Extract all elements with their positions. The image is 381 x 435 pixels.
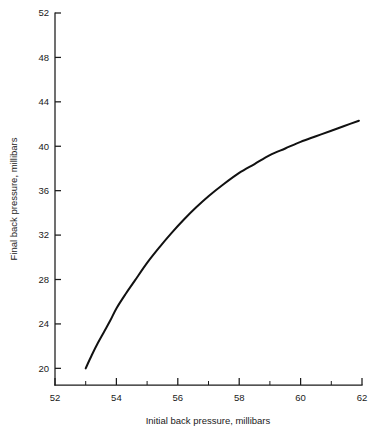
y-tick-label-32: 32 [38, 229, 49, 240]
line-chart: 202428323640444852 Final back pressure, … [0, 0, 381, 435]
y-tick-label-36: 36 [38, 185, 49, 196]
data-curve-final-back-pressure [86, 121, 359, 369]
y-tick-label-44: 44 [38, 96, 49, 107]
x-axis-tick-labels: 525456586062 [50, 392, 368, 403]
y-tick-label-40: 40 [38, 141, 49, 152]
data-series-group [86, 121, 359, 369]
x-tick-label-56: 56 [173, 392, 184, 403]
y-tick-label-24: 24 [38, 318, 49, 329]
y-axis-title: Final back pressure, millibars [8, 137, 19, 260]
y-axis-tick-labels: 202428323640444852 [38, 7, 49, 373]
x-axis-group: 525456586062 Initial back pressure, mill… [50, 378, 368, 426]
y-tick-label-48: 48 [38, 52, 49, 63]
x-tick-label-58: 58 [234, 392, 245, 403]
y-axis-group: 202428323640444852 Final back pressure, … [8, 7, 61, 385]
x-tick-label-60: 60 [295, 392, 306, 403]
x-axis-title: Initial back pressure, millibars [146, 415, 271, 426]
x-tick-label-52: 52 [50, 392, 61, 403]
y-axis-ticks [55, 13, 61, 368]
x-tick-label-54: 54 [111, 392, 122, 403]
chart-figure: 202428323640444852 Final back pressure, … [0, 0, 381, 435]
y-tick-label-20: 20 [38, 363, 49, 374]
y-tick-label-52: 52 [38, 7, 49, 18]
x-tick-label-62: 62 [357, 392, 368, 403]
y-tick-label-28: 28 [38, 274, 49, 285]
